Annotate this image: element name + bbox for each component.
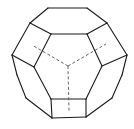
edge-line [34, 67, 51, 99]
edge-line [17, 75, 26, 98]
edge-line [107, 23, 127, 55]
edge-line [51, 99, 52, 118]
edge-line [86, 66, 102, 99]
visible-edges [12, 8, 127, 118]
edge-line [12, 55, 17, 75]
hidden-edge-line [32, 45, 68, 66]
edge-line [26, 98, 52, 118]
edge-line [122, 55, 127, 75]
edge-line [34, 34, 51, 67]
edge-line [86, 98, 112, 117]
truncated-octahedron-diagram [0, 0, 134, 129]
edge-line [112, 75, 122, 98]
edge-line [87, 23, 107, 34]
edge-line [87, 34, 102, 66]
edge-line [12, 23, 30, 55]
edge-line [12, 55, 34, 67]
hidden-edges [32, 44, 106, 111]
edge-line [30, 23, 51, 34]
edge-line [102, 55, 127, 66]
edge-line [87, 8, 107, 23]
edge-line [52, 117, 86, 118]
edge-line [30, 8, 48, 23]
hidden-edge-line [68, 66, 69, 111]
